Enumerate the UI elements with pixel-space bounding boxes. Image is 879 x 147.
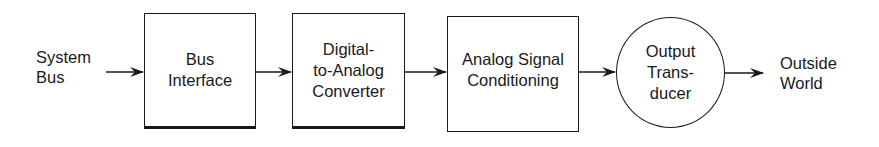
block-label-line: Bus bbox=[186, 49, 214, 70]
connector-arrows bbox=[0, 0, 879, 147]
block-label-line: Converter bbox=[312, 81, 384, 102]
input-label-line-2: Bus bbox=[36, 67, 91, 87]
block-label-line: Interface bbox=[168, 70, 232, 91]
output-label-line-2: World bbox=[780, 73, 837, 93]
block-label-line: Output bbox=[646, 41, 696, 62]
block-label-line: Analog Signal bbox=[462, 49, 564, 70]
block-output-transducer: Output Trans- ducer bbox=[616, 17, 725, 128]
block-label-line: to-Analog bbox=[313, 60, 384, 81]
block-bus-interface: Bus Interface bbox=[144, 13, 256, 129]
block-label-line: Trans- bbox=[647, 62, 694, 83]
block-digital-to-analog-converter: Digital- to-Analog Converter bbox=[292, 13, 405, 129]
input-label-line-1: System bbox=[36, 47, 91, 67]
block-label-line: ducer bbox=[650, 83, 691, 104]
input-label-system-bus: System Bus bbox=[36, 47, 91, 87]
output-label-line-1: Outside bbox=[780, 53, 837, 73]
output-label-outside-world: Outside World bbox=[780, 53, 837, 93]
block-label-line: Conditioning bbox=[467, 70, 559, 91]
block-label-line: Digital- bbox=[323, 39, 374, 60]
block-analog-signal-conditioning: Analog Signal Conditioning bbox=[447, 16, 579, 132]
